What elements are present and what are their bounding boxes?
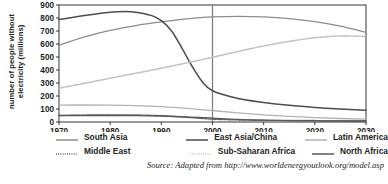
y-tick-label: 300 bbox=[40, 79, 54, 88]
y-tick-label: 400 bbox=[40, 66, 54, 75]
legend-row-2: Middle EastSub-Saharan AfricaNorth Afric… bbox=[56, 144, 388, 158]
legend-label: Middle East bbox=[84, 146, 131, 156]
legend-item-sub-saharan-africa[interactable]: Sub-Saharan Africa bbox=[190, 146, 312, 156]
line-chart-plot: 0100200300400500600700800900197019801990… bbox=[0, 0, 388, 132]
legend-label: Sub-Saharan Africa bbox=[218, 146, 295, 156]
legend-item-south-asia[interactable]: South Asia bbox=[56, 132, 186, 142]
legend-label: East Asia/China bbox=[214, 132, 277, 142]
legend-label: Latin America bbox=[333, 132, 388, 142]
legend-item-middle-east[interactable]: Middle East bbox=[56, 146, 190, 156]
legend-item-latin-america[interactable]: Latin America bbox=[305, 132, 388, 142]
source-note: Source: Adapted from http://www.worldene… bbox=[0, 160, 384, 170]
y-tick-label: 700 bbox=[40, 27, 54, 36]
chart-legend: South AsiaEast Asia/ChinaLatin America M… bbox=[56, 130, 388, 158]
legend-label: North Africa bbox=[340, 146, 388, 156]
y-tick-label: 900 bbox=[40, 1, 54, 10]
y-tick-label: 100 bbox=[40, 105, 54, 114]
y-tick-label: 200 bbox=[40, 92, 54, 101]
y-tick-label: 500 bbox=[40, 53, 54, 62]
chart-figure: number of people without electricity (mi… bbox=[0, 0, 388, 184]
legend-item-north-africa[interactable]: North Africa bbox=[312, 146, 388, 156]
y-tick-label: 800 bbox=[40, 14, 54, 23]
legend-label: South Asia bbox=[84, 132, 127, 142]
y-tick-label: 600 bbox=[40, 40, 54, 49]
legend-row-1: South AsiaEast Asia/ChinaLatin America bbox=[56, 130, 388, 144]
y-tick-label: 0 bbox=[49, 118, 54, 127]
legend-item-east-asia-china[interactable]: East Asia/China bbox=[186, 132, 305, 142]
